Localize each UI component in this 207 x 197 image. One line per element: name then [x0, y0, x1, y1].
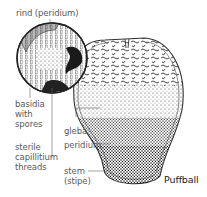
label-basidia-2: with — [15, 109, 33, 119]
magnified-inset — [17, 22, 88, 94]
puffball-body — [70, 36, 190, 191]
label-stem-1: stem — [64, 166, 85, 176]
label-sterile-1: sterile — [15, 142, 41, 152]
label-basidia-3: spores — [15, 119, 42, 129]
label-gleba: gleba — [64, 126, 87, 136]
label-stem-2: (stipe) — [64, 176, 91, 186]
label-rind: rind (peridium) — [16, 8, 78, 18]
diagram-title: Puffball — [164, 175, 199, 185]
label-peridium: peridium — [64, 140, 101, 150]
label-basidia-1: basidia — [15, 99, 45, 109]
label-sterile-3: threads — [15, 162, 47, 172]
label-sterile-2: capillitium — [15, 152, 58, 162]
